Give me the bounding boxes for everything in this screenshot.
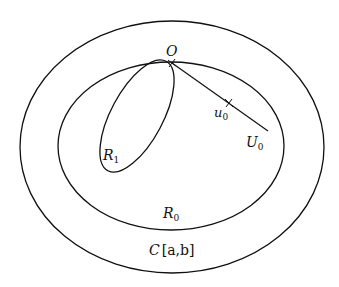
segment-u0 (172, 63, 268, 131)
point-u0-marker (225, 99, 233, 107)
label-u0: u0 (214, 105, 228, 122)
set-diagram: O u0 U0 R1 R0 C[a,b] (0, 0, 339, 287)
label-o: O (166, 43, 178, 59)
region-r1 (85, 49, 189, 183)
label-U0: U0 (246, 134, 264, 152)
label-r1: R1 (102, 147, 119, 165)
label-c-ab: C[a,b] (149, 242, 194, 258)
label-r0: R0 (162, 205, 180, 223)
